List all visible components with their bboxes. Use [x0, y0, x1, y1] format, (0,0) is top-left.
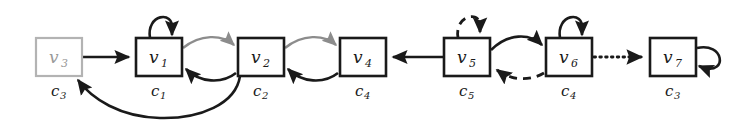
self-loop-v7: [697, 47, 720, 69]
node-v3[interactable]: v 3: [36, 38, 82, 76]
color-label-base-v5: c: [459, 82, 468, 100]
node-box-v2[interactable]: [238, 38, 284, 76]
node-sublabel-v6: 6: [571, 57, 578, 70]
node-label-v4: v: [353, 47, 363, 67]
color-label-v3: c 3: [51, 82, 66, 101]
color-label-v5: c 5: [459, 82, 474, 101]
edge-v5-to-v6: [491, 37, 542, 50]
edge-v6-to-v5: [497, 70, 544, 79]
edge-v2-to-v1: [186, 69, 236, 80]
color-label-sub-v3: 3: [60, 90, 66, 101]
color-label-base-v1: c: [151, 82, 160, 100]
edge-v4-to-v2: [288, 69, 338, 80]
node-box-v7[interactable]: [650, 38, 696, 76]
node-label-v7: v: [663, 47, 673, 67]
color-label-sub-v6: 4: [569, 90, 576, 101]
edge-v2-to-v4: [285, 37, 336, 48]
self-loop-v1: [150, 17, 172, 38]
color-label-v6: c 4: [561, 82, 576, 101]
node-label-v5: v: [457, 47, 467, 67]
node-sublabel-v2: 2: [262, 57, 270, 70]
node-sublabel-v5: 5: [469, 57, 476, 70]
node-label-v6: v: [559, 47, 569, 67]
node-box-v1[interactable]: [136, 38, 182, 76]
node-label-v2: v: [251, 47, 261, 67]
color-label-v4: c 4: [355, 82, 370, 101]
color-label-base-v6: c: [561, 82, 570, 100]
graph-diagram: v 3 v 1 v 2 v 4 v 5 v 6: [0, 0, 743, 121]
node-box-v6[interactable]: [546, 38, 592, 76]
node-v7[interactable]: v 7: [650, 38, 696, 76]
color-label-v1: c 1: [151, 82, 166, 101]
color-label-base-v2: c: [253, 82, 262, 100]
node-box-v5[interactable]: [444, 38, 490, 76]
node-v1[interactable]: v 1: [136, 38, 182, 76]
node-label-v3: v: [49, 47, 59, 67]
graph-canvas: v 3 v 1 v 2 v 4 v 5 v 6: [0, 0, 743, 121]
color-label-sub-v7: 3: [674, 90, 680, 101]
edge-v1-to-v2: [183, 37, 234, 48]
color-label-base-v7: c: [665, 82, 674, 100]
node-sublabel-v4: 4: [364, 57, 372, 70]
node-sublabel-v1: 1: [161, 57, 168, 70]
color-label-sub-v2: 2: [261, 90, 268, 101]
self-loop-v6: [560, 17, 582, 38]
color-label-v2: c 2: [253, 82, 268, 101]
node-sublabel-v3: 3: [61, 57, 68, 70]
node-v5[interactable]: v 5: [444, 38, 490, 76]
self-loop-v5: [458, 17, 480, 38]
node-v4[interactable]: v 4: [340, 38, 386, 76]
color-label-v7: c 3: [665, 82, 680, 101]
node-label-v1: v: [149, 47, 159, 67]
color-label-base-v3: c: [51, 82, 60, 100]
color-label-sub-v1: 1: [160, 90, 166, 101]
node-box-v4[interactable]: [340, 38, 386, 76]
color-label-base-v4: c: [355, 82, 364, 100]
node-v6[interactable]: v 6: [546, 38, 592, 76]
color-label-sub-v5: 5: [468, 90, 474, 101]
node-v2[interactable]: v 2: [238, 38, 284, 76]
node-sublabel-v7: 7: [675, 57, 682, 70]
node-box-v3[interactable]: [36, 38, 82, 76]
color-label-sub-v4: 4: [363, 90, 370, 101]
